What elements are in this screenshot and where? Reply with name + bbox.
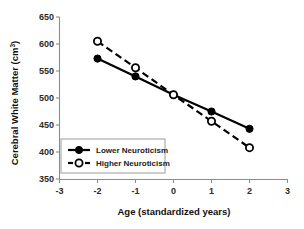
y-tick-label-550: 550	[39, 66, 54, 76]
x-tick-label-2: 2	[247, 186, 252, 196]
legend-label-higher: Higher Neuroticism	[96, 159, 170, 168]
y-axis-title-text: Cerebral White Matter (cm	[9, 48, 20, 166]
legend-swatch-marker-higher	[75, 159, 82, 166]
y-tick-label-450: 450	[39, 120, 54, 130]
chart-figure: Cerebral White Matter (cm3) 650 600 550 …	[0, 0, 304, 229]
y-tick-label-350: 350	[39, 174, 54, 184]
chart-legend: Lower Neuroticism Higher Neuroticism	[61, 139, 170, 173]
x-tick-label-n1: -1	[131, 186, 139, 196]
data-point-higher-x-2	[246, 144, 253, 151]
y-tick-label-500: 500	[39, 93, 54, 103]
y-tick-label-650: 650	[39, 12, 54, 22]
x-tick-label-n2: -2	[93, 186, 101, 196]
x-tick-label-1: 1	[209, 186, 214, 196]
x-tick-label-3: 3	[285, 186, 290, 196]
x-axis-title: Age (standardized years)	[118, 206, 231, 217]
data-point-higher-x-n1	[132, 64, 139, 71]
y-tick-label-600: 600	[39, 39, 54, 49]
x-tick-label-n3: -3	[55, 186, 63, 196]
y-tick-label-400: 400	[39, 147, 54, 157]
y-axis-title-suffix: )	[9, 41, 20, 44]
y-axis-title: Cerebral White Matter (cm3)	[9, 41, 20, 166]
data-point-lower-x-2	[246, 125, 253, 132]
data-point-higher-x-0	[170, 91, 177, 98]
data-point-lower-x-n1	[132, 73, 139, 80]
legend-label-lower: Lower Neuroticism	[96, 146, 168, 155]
data-point-higher-x-n2	[94, 38, 101, 45]
data-point-lower-x-n2	[94, 55, 101, 62]
chart-plot-area: Cerebral White Matter (cm3) 650 600 550 …	[0, 0, 304, 229]
data-point-lower-x-1	[208, 108, 215, 115]
legend-swatch-marker-lower	[75, 146, 82, 153]
x-tick-label-0: 0	[171, 186, 176, 196]
data-point-higher-x-1	[208, 118, 215, 125]
